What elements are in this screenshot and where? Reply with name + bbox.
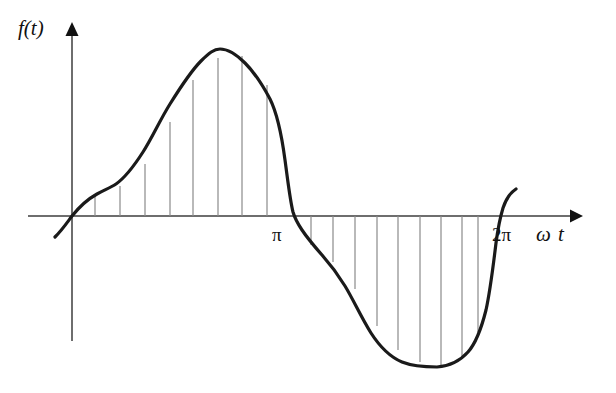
waveform-figure: f(t) ω t π 2π: [0, 0, 616, 393]
y-axis-arrow-icon: [66, 22, 79, 36]
x-axis-arrow-icon: [570, 210, 583, 223]
y-axis-label: f(t): [18, 16, 44, 41]
hatch-negative-region: [311, 216, 478, 366]
x-tick-label-pi: π: [272, 224, 282, 246]
waveform-plot-svg: [0, 0, 616, 393]
x-tick-label-two-pi: 2π: [492, 224, 511, 246]
hatch-positive-region: [95, 56, 267, 216]
x-axis-label: ω t: [536, 222, 565, 247]
vertical-axis: [66, 22, 79, 341]
waveform-curve: [55, 49, 516, 367]
